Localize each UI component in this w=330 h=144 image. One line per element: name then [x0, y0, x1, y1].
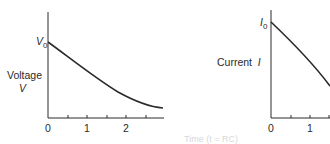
right-chart: [271, 10, 330, 118]
voltage-curve: [48, 42, 163, 108]
current-curve: [271, 22, 330, 86]
voltage-axis-symbol: V: [19, 82, 26, 94]
current-axis-label: Current I: [217, 56, 261, 68]
left-tick-0: 0: [45, 122, 51, 134]
time-axis-caption: Time (t = RC): [184, 134, 238, 144]
right-tick-1: 1: [307, 122, 313, 134]
left-tick-1: 1: [84, 122, 90, 134]
voltage-axis-label: Voltage: [7, 69, 42, 81]
right-tick-0: 0: [268, 122, 274, 134]
left-tick-2: 2: [123, 122, 129, 134]
i0-label: I0: [260, 16, 267, 30]
left-chart: [48, 12, 164, 118]
v0-label: V0: [36, 35, 47, 49]
